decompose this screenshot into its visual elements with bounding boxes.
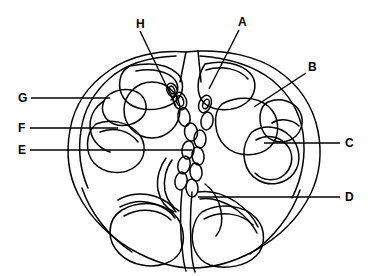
orbital-plate-right-inner bbox=[206, 68, 248, 79]
label-b: B bbox=[308, 61, 317, 73]
frontal-midline-notch bbox=[180, 51, 201, 82]
label-f: F bbox=[18, 122, 25, 134]
sphenoid-wing-left-inner bbox=[100, 129, 138, 142]
pterygoid-strut-left-2 bbox=[164, 160, 179, 211]
anatomy-figure: A B C D E F G H bbox=[0, 0, 374, 276]
label-h: H bbox=[136, 18, 145, 30]
label-e: E bbox=[18, 144, 26, 156]
occipital-lobe-left-inner bbox=[124, 210, 171, 220]
greater-wing-right bbox=[260, 100, 302, 142]
occipital-lobe-right-inner bbox=[204, 214, 253, 225]
midline-segment-r4 bbox=[191, 146, 205, 165]
zygomatic-arch-right-2 bbox=[200, 199, 257, 233]
label-d: D bbox=[345, 191, 354, 203]
skull-outline-group bbox=[68, 51, 320, 272]
occipital-lobe-right bbox=[192, 206, 263, 267]
label-g: G bbox=[18, 92, 27, 104]
leader-line-a bbox=[209, 30, 239, 89]
cranial-outline bbox=[68, 51, 320, 268]
petrous-ridge-right bbox=[272, 120, 299, 126]
label-c: C bbox=[345, 137, 354, 149]
anatomy-diagram bbox=[0, 0, 374, 276]
midline-segment-r2 bbox=[200, 111, 215, 131]
label-a: A bbox=[238, 16, 247, 28]
petrous-temporal-right bbox=[244, 127, 299, 184]
